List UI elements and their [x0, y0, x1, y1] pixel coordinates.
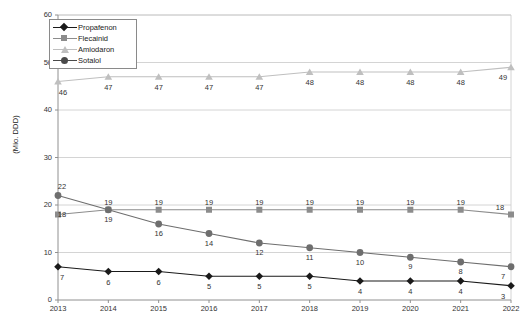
y-tick-label: 60	[26, 10, 52, 19]
x-tick-label: 2015	[139, 304, 179, 313]
y-tick-label: 30	[26, 153, 52, 162]
data-point-label: 19	[345, 198, 375, 207]
data-point-label: 5	[295, 282, 325, 291]
data-point-label: 19	[194, 198, 224, 207]
data-point-label: 47	[144, 83, 174, 92]
data-point-label: 47	[194, 83, 224, 92]
legend-label-amiodaron: Amiodaron	[78, 44, 114, 55]
legend-label-flecainid: Flecainid	[78, 33, 108, 44]
data-point-label: 4	[395, 287, 425, 296]
legend-item-propafenon: Propafenon	[52, 22, 136, 33]
legend-item-amiodaron: Amiodaron	[52, 44, 136, 55]
y-tick-label: 40	[26, 105, 52, 114]
y-tick-label: 20	[26, 200, 52, 209]
data-point-label: 48	[395, 78, 425, 87]
data-point-label: 6	[144, 278, 174, 287]
data-point-label: 3	[488, 292, 518, 301]
data-point-label: 19	[395, 198, 425, 207]
data-point-label: 48	[345, 78, 375, 87]
data-point-label: 9	[395, 262, 425, 271]
data-point-label: 48	[446, 78, 476, 87]
x-tick-label: 2017	[239, 304, 279, 313]
data-point-label: 14	[194, 239, 224, 248]
data-point-label: 4	[345, 287, 375, 296]
flecainid-marker-icon	[52, 33, 78, 44]
legend-item-sotalol: Sotalol	[52, 55, 136, 66]
data-point-label: 4	[446, 287, 476, 296]
data-point-label: 7	[47, 273, 77, 282]
legend-label-sotalol: Sotalol	[78, 55, 101, 66]
data-point-label: 49	[488, 73, 518, 82]
data-point-label: 8	[446, 267, 476, 276]
data-point-label: 19	[144, 198, 174, 207]
legend-label-propafenon: Propafenon	[78, 22, 117, 33]
data-point-label: 22	[47, 182, 77, 191]
propafenon-marker-icon	[52, 22, 78, 33]
y-tick-label: 0	[26, 295, 52, 304]
data-point-label: 12	[244, 248, 274, 257]
data-point-label: 19	[295, 198, 325, 207]
x-tick-label: 2019	[340, 304, 380, 313]
x-tick-label: 2014	[88, 304, 128, 313]
data-point-label: 10	[345, 258, 375, 267]
amiodaron-marker-icon	[52, 44, 78, 55]
data-point-label: 19	[446, 198, 476, 207]
data-point-label: 46	[48, 88, 78, 97]
y-axis-title: (Mio. DDD)	[11, 90, 20, 180]
line-chart: (Mio. DDD) 6050403020100 201320142015201…	[0, 0, 523, 322]
chart-legend: Propafenon Flecainid Amiodaron Sotalol	[49, 19, 137, 69]
data-point-label: 19	[93, 198, 123, 207]
data-point-label: 18	[47, 210, 77, 219]
data-point-label: 47	[244, 83, 274, 92]
x-tick-label: 2022	[491, 304, 523, 313]
y-tick-label: 10	[26, 248, 52, 257]
data-point-label: 19	[244, 198, 274, 207]
data-point-label: 7	[488, 272, 518, 281]
data-point-label: 48	[295, 78, 325, 87]
x-tick-label: 2021	[441, 304, 481, 313]
x-tick-label: 2020	[390, 304, 430, 313]
x-tick-label: 2016	[189, 304, 229, 313]
data-point-label: 6	[93, 278, 123, 287]
data-point-label: 16	[144, 229, 174, 238]
data-point-label: 5	[244, 282, 274, 291]
sotalol-marker-icon	[52, 55, 78, 66]
x-tick-label: 2013	[38, 304, 78, 313]
legend-item-flecainid: Flecainid	[52, 33, 136, 44]
x-tick-label: 2018	[290, 304, 330, 313]
data-point-label: 18	[485, 203, 515, 212]
data-point-label: 19	[93, 215, 123, 224]
data-point-label: 5	[194, 282, 224, 291]
data-point-label: 11	[295, 253, 325, 262]
data-point-label: 47	[93, 83, 123, 92]
